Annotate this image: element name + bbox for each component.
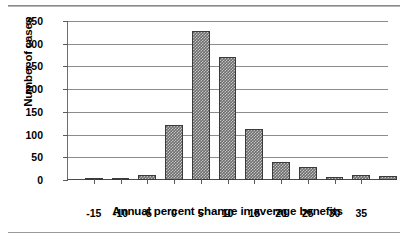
y-tick-label: 50 — [3, 151, 43, 163]
x-tick-mark — [281, 179, 282, 184]
y-tick-mark — [63, 89, 68, 90]
histogram-bar — [192, 31, 210, 180]
x-tick-mark — [335, 179, 336, 184]
y-tick-label: 100 — [3, 129, 43, 141]
y-tick-mark — [63, 157, 68, 158]
x-axis-title: Annual percent change in average benefit… — [67, 205, 388, 217]
x-tick-mark — [308, 179, 309, 184]
y-tick-mark — [63, 44, 68, 45]
y-tick-label: 300 — [3, 38, 43, 50]
x-tick-mark — [121, 179, 122, 184]
bottom-divider-rule — [8, 232, 400, 233]
y-tick-mark — [63, 66, 68, 67]
y-tick-mark — [63, 180, 68, 181]
x-tick-mark — [254, 179, 255, 184]
histogram-figure: Number of cases 050100150200250300350-15… — [0, 0, 408, 242]
y-tick-mark — [63, 135, 68, 136]
histogram-bar — [379, 176, 397, 180]
y-tick-label: 150 — [3, 106, 43, 118]
x-tick-mark — [201, 179, 202, 184]
histogram-bar — [245, 129, 263, 180]
top-divider-rule — [8, 5, 400, 7]
plot-area: 050100150200250300350-15-10-505101520253… — [67, 21, 388, 180]
y-tick-label: 350 — [3, 15, 43, 27]
y-tick-label: 200 — [3, 83, 43, 95]
x-tick-mark — [174, 179, 175, 184]
x-tick-mark — [147, 179, 148, 184]
y-tick-label: 0 — [3, 174, 43, 186]
x-tick-mark — [228, 179, 229, 184]
x-tick-mark — [94, 179, 95, 184]
y-tick-mark — [63, 112, 68, 113]
histogram-bar — [272, 162, 290, 180]
y-tick-label: 250 — [3, 60, 43, 72]
histogram-bar — [219, 57, 237, 180]
y-tick-mark — [63, 21, 68, 22]
gridline — [67, 21, 388, 22]
x-tick-mark — [361, 179, 362, 184]
histogram-bar — [165, 125, 183, 180]
gridline — [67, 44, 388, 45]
